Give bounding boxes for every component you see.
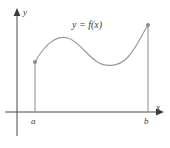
- y-axis-label: y: [23, 8, 27, 17]
- function-curve: [35, 25, 148, 65]
- curve-equation-label: y = f(x): [72, 20, 102, 30]
- function-graph-figure: y x a b y = f(x): [0, 0, 170, 148]
- right-bound-label-b: b: [144, 117, 149, 126]
- curve-endpoint-a-dot: [33, 60, 37, 64]
- left-bound-label-a: a: [31, 117, 36, 126]
- curve-endpoint-b-dot: [146, 23, 150, 27]
- x-axis-label: x: [156, 103, 160, 112]
- y-axis-arrowhead: [14, 8, 21, 16]
